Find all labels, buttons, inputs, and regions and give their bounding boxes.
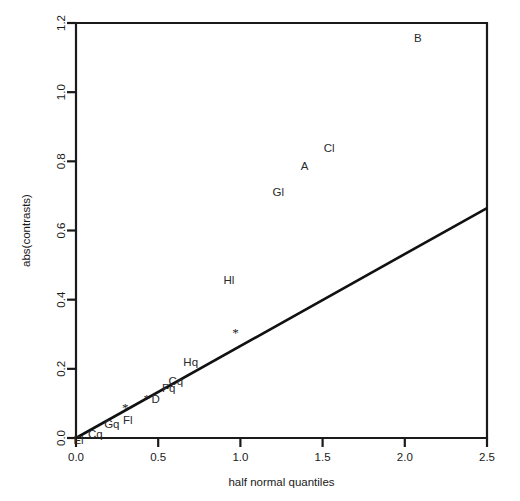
- x-axis-tick-label: 0.0: [68, 451, 84, 463]
- y-axis-tick-label: 1.0: [55, 84, 67, 100]
- data-point-label: Cl: [324, 142, 335, 154]
- y-axis-tick-label: 1.2: [55, 15, 67, 31]
- y-axis-tick-label: 0.2: [55, 361, 67, 377]
- reference-line: [76, 208, 487, 438]
- data-point-label: Fl: [123, 414, 133, 426]
- y-axis-tick-label: 0.4: [55, 291, 67, 308]
- x-axis-tick-label: 2.0: [397, 451, 413, 463]
- data-point-label: Cq: [169, 375, 184, 387]
- chart-canvas: 0.00.20.40.60.81.01.20.00.51.01.52.02.5h…: [0, 0, 520, 501]
- x-axis-tick-label: 1.5: [315, 451, 331, 463]
- x-axis-tick-label: 1.0: [232, 451, 248, 463]
- y-axis-tick-label: 0.8: [55, 153, 67, 169]
- y-axis-title: abs(contrasts): [20, 194, 32, 267]
- data-point-marker: *: [232, 325, 239, 340]
- y-axis-tick-label: 0.0: [55, 430, 67, 446]
- x-axis-tick-label: 2.5: [479, 451, 495, 463]
- data-point-label: Cq: [88, 428, 103, 440]
- data-point-marker: *: [143, 391, 150, 406]
- data-point-label: Hl: [223, 274, 234, 286]
- data-point-label: Gl: [272, 186, 284, 198]
- data-point-label: Gq: [104, 418, 119, 430]
- data-point-label: Hq: [183, 356, 198, 368]
- data-point-label: A: [301, 160, 309, 172]
- data-point-marker: *: [122, 400, 129, 415]
- x-axis-title: half normal quantiles: [228, 476, 334, 488]
- plot-frame: [76, 23, 487, 438]
- data-point-label: B: [414, 32, 422, 44]
- data-point-label: El: [73, 434, 83, 446]
- x-axis-tick-label: 0.5: [150, 451, 166, 463]
- data-point-label: D: [151, 393, 159, 405]
- half-normal-plot: 0.00.20.40.60.81.01.20.00.51.01.52.02.5h…: [0, 0, 520, 501]
- y-axis-tick-label: 0.6: [55, 223, 67, 239]
